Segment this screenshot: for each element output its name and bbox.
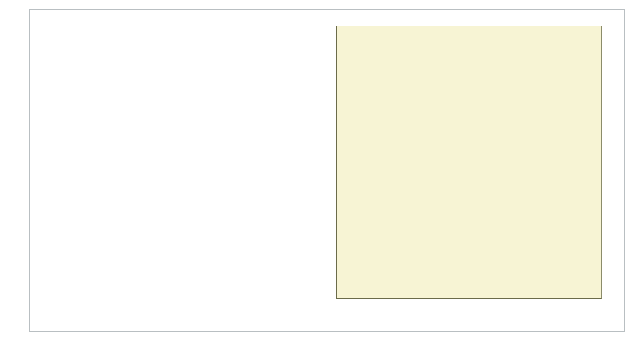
- plot-top-face: [336, 18, 610, 27]
- plot-area: [336, 18, 604, 300]
- category-axis-labels: [36, 18, 316, 300]
- plot-back-wall: [336, 26, 602, 299]
- plot-left-wall: [327, 26, 337, 308]
- value-axis: [336, 300, 626, 324]
- bar-chart: [0, 0, 634, 341]
